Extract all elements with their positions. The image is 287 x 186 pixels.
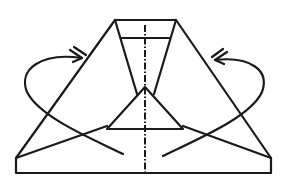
right-arrowhead-icon [212, 49, 227, 64]
bottom-base [16, 158, 271, 173]
right-outer-edge [176, 20, 271, 158]
right-inner-edge [154, 20, 176, 94]
diagram-svg [0, 0, 287, 186]
right-diagonal-to-triangle [183, 126, 271, 158]
left-fold-arrow [25, 57, 123, 154]
origami-diagram: Fold both outer flaps behind along the s… [0, 0, 287, 186]
left-diagonal-to-triangle [16, 126, 107, 158]
left-outer-edge [16, 20, 115, 158]
left-arrowhead-icon [70, 47, 86, 62]
left-inner-edge [115, 20, 137, 94]
